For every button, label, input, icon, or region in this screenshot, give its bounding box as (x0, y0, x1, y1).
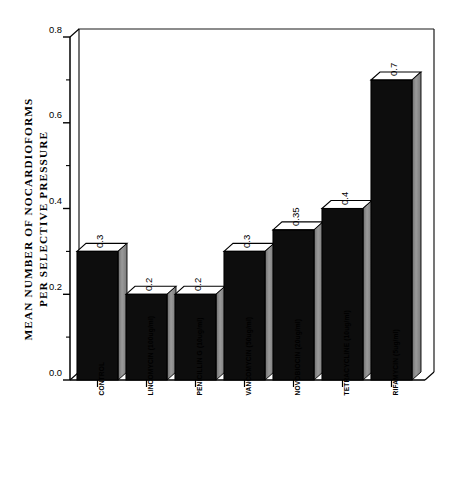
y-axis-major-ticks (63, 37, 70, 380)
bar-value-tetracycline: 0.4 (340, 192, 350, 205)
x-label-rifamycin: RIFAMYCIN (5ug/ml) (392, 329, 399, 395)
x-label-control: CONTROL (98, 362, 105, 396)
bar-control (77, 243, 127, 380)
x-label-penicillin-g: PENICILLIN G (10ug/ml) (196, 317, 203, 395)
bar-value-vancomycin: 0.3 (242, 235, 252, 248)
bar-value-rifamycin: 0.7 (389, 63, 399, 76)
bar-value-control: 0.3 (95, 235, 105, 248)
bar-value-penicillin-g: 0.2 (193, 278, 203, 291)
bar-chart-figure: MEAN NUMBER OF NOCARDIOFORMS PER SELECTI… (0, 0, 449, 500)
x-label-vancomycin: VANCOMYCIN (50ug/ml) (245, 317, 252, 396)
bar-value-lincomycin: 0.2 (144, 278, 154, 291)
x-label-lincomycin: LINCOMYCIN (100ug/ml) (147, 316, 154, 396)
bar-value-novobiocin: 0.35 (291, 207, 301, 226)
plot-area (0, 0, 449, 500)
x-label-novobiocin: NOVOBIOCIN (20ug/ml) (294, 319, 301, 396)
x-label-tetracycline: TETRACYCLINE (10ug/ml) (343, 310, 350, 395)
